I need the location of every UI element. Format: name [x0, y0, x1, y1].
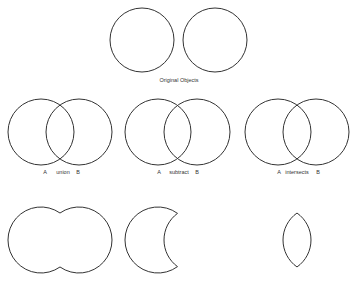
union-result-shape [8, 207, 112, 273]
boolean-operations-diagram: Original Objects A union B A subtract B … [0, 0, 356, 282]
union-setup: A union B [8, 99, 112, 175]
circle-a [110, 8, 174, 72]
original-objects: Original Objects [110, 8, 247, 83]
union-circle-a [8, 99, 74, 165]
subtract-setup: A subtract B [125, 99, 230, 175]
intersects-setup: A intersects B [245, 99, 349, 175]
intersects-b-label: B [316, 169, 320, 175]
intersects-result-shape [283, 213, 311, 267]
subtract-b-label: B [195, 169, 199, 175]
union-b-label: B [76, 169, 80, 175]
subtract-circle-b [164, 99, 230, 165]
intersects-a-label: A [277, 169, 281, 175]
intersects-op-label: intersects [285, 169, 309, 175]
union-circle-b [46, 99, 112, 165]
subtract-a-label: A [157, 169, 161, 175]
intersects-circle-b [283, 99, 349, 165]
subtract-op-label: subtract [169, 169, 189, 175]
subtract-circle-a [125, 99, 191, 165]
original-objects-label: Original Objects [159, 77, 198, 83]
circle-b [183, 8, 247, 72]
subtract-result-shape [125, 207, 178, 273]
union-op-label: union [56, 169, 69, 175]
intersects-circle-a [245, 99, 311, 165]
union-a-label: A [43, 169, 47, 175]
